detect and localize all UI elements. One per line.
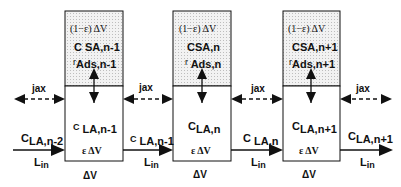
arrow-left-icon bbox=[123, 94, 134, 104]
text: ε ΔV bbox=[191, 145, 211, 156]
text: SA,n-1 bbox=[85, 41, 120, 53]
text: LA,n bbox=[254, 135, 278, 147]
arrow-right-icon bbox=[162, 94, 173, 104]
cell-volume-label: ΔV bbox=[302, 170, 316, 180]
text: in bbox=[258, 160, 266, 170]
text: SA,n bbox=[195, 41, 220, 53]
text: C bbox=[348, 130, 356, 142]
text: C bbox=[73, 122, 80, 132]
adsorption-rate-label: rAds,n+1 bbox=[289, 59, 335, 70]
dispersion-label: jax bbox=[356, 84, 370, 94]
text: LA,n-1 bbox=[83, 123, 117, 135]
text: C bbox=[74, 41, 82, 53]
text: in bbox=[367, 160, 375, 170]
text: (1−ε) ΔV bbox=[70, 23, 107, 34]
flow-rate-label: Lin bbox=[144, 157, 159, 168]
text: (1−ε) ΔV bbox=[179, 23, 216, 34]
text: L bbox=[251, 156, 258, 168]
liquid-concentration-label: CLA,n bbox=[188, 121, 220, 132]
solid-volume-label: (1−ε) ΔV bbox=[179, 24, 216, 34]
dispersion-label: jax bbox=[251, 84, 265, 94]
liquid-volume-label: ε ΔV bbox=[82, 146, 102, 156]
text: Ads,n-1 bbox=[76, 58, 116, 70]
cell-volume-label: ΔV bbox=[193, 170, 207, 180]
text: L bbox=[144, 156, 151, 168]
flow-concentration-label: C LA,n bbox=[243, 133, 278, 144]
text: ε ΔV bbox=[82, 145, 102, 156]
liquid-volume-label: ε ΔV bbox=[299, 146, 319, 156]
arrow-right-icon bbox=[272, 94, 283, 104]
arrow-left-icon bbox=[231, 94, 242, 104]
text: (1−ε) ΔV bbox=[288, 23, 325, 34]
text: LA,n+1 bbox=[356, 133, 393, 145]
text: L bbox=[34, 156, 41, 168]
arrow-right-icon bbox=[379, 144, 393, 156]
text: in bbox=[151, 160, 159, 170]
arrow-right-icon bbox=[54, 94, 65, 104]
text: SA,n+1 bbox=[300, 41, 338, 53]
text: L bbox=[360, 156, 367, 168]
text: r bbox=[289, 57, 292, 67]
text: LA,n bbox=[196, 123, 220, 135]
text: in bbox=[41, 160, 49, 170]
arrow-left-icon bbox=[340, 94, 351, 104]
text: C bbox=[130, 134, 137, 144]
text: C bbox=[187, 41, 195, 53]
flow-concentration-label: CLA,n+1 bbox=[348, 131, 393, 142]
flow-rate-label: Lin bbox=[34, 157, 49, 168]
flow-rate-label: Lin bbox=[251, 157, 266, 168]
text: r bbox=[185, 57, 188, 67]
text: C bbox=[292, 41, 300, 53]
cell-volume-label: ΔV bbox=[83, 171, 97, 181]
solid-concentration-label: C SA,n-1 bbox=[74, 42, 120, 53]
solid-concentration-label: CSA,n bbox=[187, 42, 220, 53]
arrow-right-icon bbox=[381, 94, 392, 104]
flow-concentration-label: CLA,n-2 bbox=[21, 133, 63, 144]
arrow-left-icon bbox=[14, 94, 25, 104]
solid-concentration-label: CSA,n+1 bbox=[292, 42, 338, 53]
liquid-concentration-label: C LA,n-1 bbox=[73, 121, 117, 132]
flow-rate-label: Lin bbox=[360, 157, 375, 168]
text: r bbox=[73, 57, 76, 67]
flow-concentration-label: C LA,n-1 bbox=[130, 133, 174, 144]
adsorption-rate-label: rAds,n-1 bbox=[73, 59, 116, 70]
liquid-volume-label: ε ΔV bbox=[191, 146, 211, 156]
text: ε ΔV bbox=[299, 145, 319, 156]
dispersion-label: jax bbox=[139, 83, 153, 93]
text: LA,n-2 bbox=[29, 135, 63, 147]
text: Ads,n bbox=[191, 58, 222, 70]
text: C bbox=[21, 132, 29, 144]
text: LA,n+1 bbox=[300, 123, 337, 135]
solid-volume-label: (1−ε) ΔV bbox=[288, 24, 325, 34]
dispersion-label: jax bbox=[32, 84, 46, 94]
solid-volume-label: (1−ε) ΔV bbox=[70, 24, 107, 34]
text: C bbox=[243, 132, 251, 144]
text: C bbox=[292, 120, 300, 132]
text: LA,n-1 bbox=[140, 135, 174, 147]
text: Ads,n+1 bbox=[292, 58, 335, 70]
text: C bbox=[188, 120, 196, 132]
liquid-concentration-label: CLA,n+1 bbox=[292, 121, 337, 132]
adsorption-rate-label: r Ads,n bbox=[185, 59, 221, 70]
